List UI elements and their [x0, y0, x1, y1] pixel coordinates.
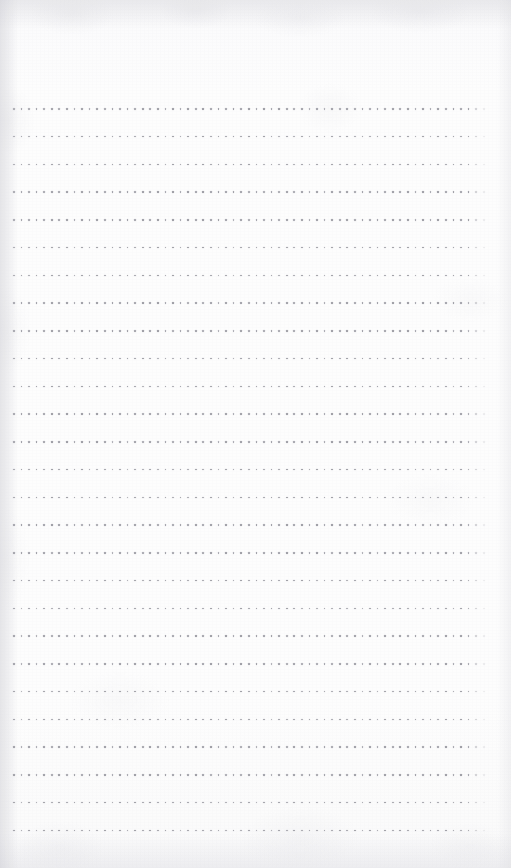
grid-dot [21, 691, 23, 693]
grid-dot [157, 691, 159, 693]
grid-dot [187, 108, 189, 110]
grid-dot [74, 552, 76, 554]
grid-dot [36, 247, 38, 249]
grid-dot [13, 191, 15, 193]
grid-dot [66, 469, 68, 471]
grid-dot [453, 164, 455, 166]
grid-dot [362, 136, 364, 138]
grid-dot [248, 219, 250, 221]
grid-dot [58, 164, 60, 166]
grid-dot [286, 552, 288, 554]
grid-dot [309, 663, 311, 665]
grid-dot [415, 358, 417, 360]
grid-dot [104, 691, 106, 693]
grid-dot [399, 164, 401, 166]
grid-dot [309, 191, 311, 193]
grid-dot [346, 663, 348, 665]
grid-dot [149, 413, 151, 415]
grid-dot [43, 191, 45, 193]
grid-dot [256, 497, 258, 499]
grid-dot [248, 413, 250, 415]
grid-dot [104, 219, 106, 221]
grid-dot [453, 302, 455, 304]
grid-dot [445, 746, 447, 748]
grid-dot [293, 580, 295, 582]
grid-dot [233, 441, 235, 443]
grid-dot [468, 830, 470, 832]
grid-dot [399, 746, 401, 748]
grid-dot [415, 386, 417, 388]
grid-dot [248, 247, 250, 249]
grid-dot [293, 247, 295, 249]
grid-dot [369, 441, 371, 443]
grid-dot [96, 413, 98, 415]
grid-dot [89, 164, 91, 166]
grid-dot [354, 302, 356, 304]
grid-dot [142, 608, 144, 610]
grid-dot [202, 164, 204, 166]
grid-dot [324, 330, 326, 332]
grid-dot [483, 635, 485, 637]
grid-dot [301, 830, 303, 832]
grid-dot [278, 830, 280, 832]
grid-dot [399, 691, 401, 693]
grid-dot [445, 219, 447, 221]
grid-dot [119, 108, 121, 110]
grid-dot [66, 330, 68, 332]
grid-dot [202, 358, 204, 360]
grid-dot [119, 719, 121, 721]
grid-dot [51, 497, 53, 499]
grid-dot [346, 275, 348, 277]
grid-dot [263, 802, 265, 804]
grid-dot [331, 552, 333, 554]
grid-dot [195, 136, 197, 138]
grid-dot [468, 524, 470, 526]
grid-dot [134, 802, 136, 804]
grid-dot [422, 247, 424, 249]
grid-dot [240, 691, 242, 693]
grid-dot [339, 635, 341, 637]
grid-dot [407, 247, 409, 249]
grid-dot [392, 275, 394, 277]
grid-dot [301, 441, 303, 443]
grid-dot [286, 635, 288, 637]
grid-dot [271, 608, 273, 610]
grid-dot [377, 386, 379, 388]
grid-dot [127, 635, 129, 637]
grid-dot [399, 358, 401, 360]
grid-dot [66, 358, 68, 360]
grid-dot [346, 108, 348, 110]
grid-dot [43, 330, 45, 332]
grid-dot [36, 136, 38, 138]
grid-dot [256, 247, 258, 249]
grid-dot [134, 691, 136, 693]
grid-dot [96, 774, 98, 776]
grid-dot [362, 275, 364, 277]
grid-dot [96, 164, 98, 166]
grid-dot [316, 358, 318, 360]
grid-dot [301, 191, 303, 193]
grid-dot [21, 191, 23, 193]
grid-dot [165, 191, 167, 193]
grid-dot [240, 386, 242, 388]
grid-dot [278, 136, 280, 138]
grid-dot [293, 663, 295, 665]
grid-dot [233, 552, 235, 554]
grid-dot [422, 108, 424, 110]
grid-dot [256, 524, 258, 526]
grid-dot [362, 552, 364, 554]
grid-dot [377, 469, 379, 471]
grid-dot [460, 108, 462, 110]
grid-dot [210, 136, 212, 138]
grid-dot [36, 219, 38, 221]
grid-dot [233, 108, 235, 110]
grid-dot [309, 691, 311, 693]
grid-dot [13, 552, 15, 554]
grid-dot [384, 219, 386, 221]
grid-dot [399, 663, 401, 665]
grid-dot [218, 441, 220, 443]
grid-dot [149, 469, 151, 471]
grid-dot [21, 802, 23, 804]
grid-dot [13, 691, 15, 693]
grid-dot [339, 413, 341, 415]
